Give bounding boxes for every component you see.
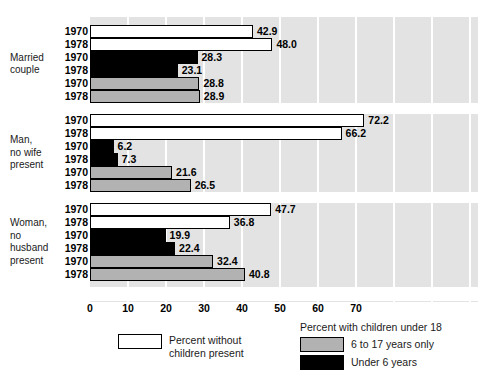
group-separator	[90, 192, 478, 203]
bar-value-label: 48.0	[276, 38, 296, 51]
legend-swatch-gray-icon	[300, 337, 344, 352]
bar	[90, 64, 178, 77]
legend-with-children: Percent with children under 18 6 to 17 y…	[300, 321, 442, 370]
bar-value-label: 32.4	[217, 255, 237, 268]
bar	[90, 77, 199, 90]
bar	[90, 166, 172, 179]
x-tick-label: 0	[75, 302, 105, 314]
bar-value-label: 28.8	[203, 77, 223, 90]
x-tick-label: 70	[341, 302, 371, 314]
bar-value-label: 42.9	[257, 25, 277, 38]
bar	[90, 25, 253, 38]
year-label: 1970	[54, 77, 88, 90]
year-label: 1970	[54, 166, 88, 179]
year-label: 1978	[54, 242, 88, 255]
bar	[90, 38, 272, 51]
year-label: 1978	[54, 38, 88, 51]
legend-swatch-white-icon	[118, 334, 162, 349]
bar	[90, 153, 118, 166]
year-label: 1970	[54, 140, 88, 153]
bar-value-label: 19.9	[170, 229, 190, 242]
year-label: 1978	[54, 179, 88, 192]
year-label: 1970	[54, 203, 88, 216]
x-axis: 010203040506070	[90, 302, 478, 320]
year-label: 1970	[54, 114, 88, 127]
bar	[90, 255, 213, 268]
x-tick-label: 30	[189, 302, 219, 314]
year-label: 1970	[54, 51, 88, 64]
x-tick-label: 10	[113, 302, 143, 314]
legend-item: Under 6 years	[300, 355, 442, 370]
bar-value-label: 28.9	[204, 90, 224, 103]
legend-without-children: Percent without children present	[118, 334, 244, 359]
bar	[90, 140, 114, 153]
group-separator	[90, 103, 478, 114]
bar-value-label: 28.3	[202, 51, 222, 64]
legend-item-label: Under 6 years	[351, 356, 417, 369]
bar	[90, 179, 191, 192]
bar-value-label: 36.8	[234, 216, 254, 229]
bar-value-label: 22.4	[179, 242, 199, 255]
legend-label-without-children: Percent without children present	[169, 334, 244, 359]
bar-value-label: 40.8	[249, 268, 269, 281]
gridline	[317, 17, 319, 302]
bar-value-label: 6.2	[118, 140, 133, 153]
legend-item: 6 to 17 years only	[300, 337, 442, 352]
year-label: 1970	[54, 255, 88, 268]
legend-group-title: Percent with children under 18	[300, 321, 442, 334]
x-tick-label: 60	[303, 302, 333, 314]
year-label: 1970	[54, 229, 88, 242]
category-label: Man, no wife present	[10, 134, 54, 172]
gridline	[469, 17, 471, 302]
x-tick-label: 20	[151, 302, 181, 314]
category-label: Married couple	[10, 52, 54, 77]
legend-item-label: 6 to 17 years only	[351, 338, 434, 351]
bar	[90, 51, 198, 64]
x-tick-label: 50	[265, 302, 295, 314]
gridline	[393, 17, 395, 302]
bar-value-label: 26.5	[195, 179, 215, 192]
gridline	[241, 17, 243, 302]
bar-value-label: 47.7	[275, 203, 295, 216]
gridline	[355, 17, 357, 302]
bar-chart: Married coupleMan, no wife presentWoman,…	[0, 0, 494, 381]
bar	[90, 268, 245, 281]
gridline	[431, 17, 433, 302]
year-label: 1978	[54, 268, 88, 281]
bar	[90, 242, 175, 255]
bar	[90, 216, 230, 229]
bar	[90, 114, 364, 127]
bar	[90, 90, 200, 103]
bar	[90, 127, 342, 140]
bar	[90, 203, 271, 216]
year-label: 1978	[54, 64, 88, 77]
bar-value-label: 23.1	[182, 64, 202, 77]
year-label: 1978	[54, 153, 88, 166]
group-separator	[90, 287, 478, 301]
year-label: 1978	[54, 127, 88, 140]
legend-swatch-black-icon	[300, 355, 344, 370]
bar-value-label: 7.3	[122, 153, 137, 166]
year-label: 1978	[54, 216, 88, 229]
bar-value-label: 66.2	[346, 127, 366, 140]
gridline	[279, 17, 281, 302]
bar-value-label: 21.6	[176, 166, 196, 179]
x-tick-label: 40	[227, 302, 257, 314]
category-label: Woman, no husband present	[10, 217, 54, 267]
year-label: 1978	[54, 90, 88, 103]
bar	[90, 229, 166, 242]
year-label: 1970	[54, 25, 88, 38]
bar-value-label: 72.2	[368, 114, 388, 127]
